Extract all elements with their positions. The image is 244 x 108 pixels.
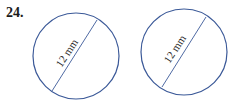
circle-figure-1: 12 mm: [33, 13, 119, 99]
diameter-label-2: 12 mm: [161, 32, 188, 65]
circle-figure-2: 12 mm: [141, 9, 227, 95]
circles-diagram: 12 mm 12 mm: [0, 0, 244, 108]
circle-1: [33, 13, 119, 99]
